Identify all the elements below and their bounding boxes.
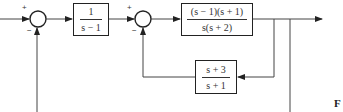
block-g1: 1 s − 1: [73, 3, 109, 36]
g2-numerator: (s − 1)(s + 1): [191, 6, 243, 17]
sum1-circle: [30, 11, 46, 27]
h1-fraction-bar: [202, 77, 230, 78]
g1-numerator: 1: [89, 6, 94, 17]
g1-denominator: s − 1: [81, 22, 101, 33]
h1-denominator: s + 1: [206, 80, 226, 91]
h1-numerator: s + 3: [206, 64, 226, 75]
sum2-circle: [135, 11, 151, 27]
g2-fraction-bar: [187, 19, 247, 20]
figure-caption: F: [334, 97, 341, 109]
g2-denominator: s(s + 2): [202, 22, 232, 33]
g1-fraction-bar: [80, 19, 102, 20]
sum2-minus-sign: −: [132, 26, 137, 35]
block-h1: s + 3 s + 1: [195, 60, 237, 94]
diagram-wiring: [0, 0, 343, 112]
block-g2: (s − 1)(s + 1) s(s + 2): [181, 3, 253, 36]
sum1-minus-sign: −: [27, 26, 32, 35]
sum2-plus-sign: +: [127, 3, 132, 12]
sum1-plus-sign: +: [22, 3, 27, 12]
